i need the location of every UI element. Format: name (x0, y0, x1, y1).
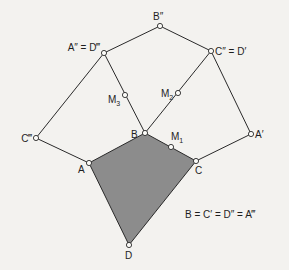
point-m3 (122, 92, 127, 97)
edge-app-cppp (36, 53, 104, 138)
point-a (86, 160, 91, 165)
point-d (126, 242, 131, 247)
label-m3: M3 (108, 94, 120, 107)
label-b-double-prime: B″ (153, 11, 164, 22)
edge-cppp-a (36, 138, 89, 163)
edge-ap-c (196, 134, 251, 161)
point-a-prime (248, 131, 253, 136)
label-a: A (78, 164, 85, 175)
label-c-double-prime-eq-d-prime: C″ = D′ (215, 46, 246, 57)
point-b (142, 130, 147, 135)
point-c-double-prime (208, 48, 213, 53)
label-c-triple-prime: C‴ (21, 133, 32, 144)
label-m2: M2 (161, 88, 173, 101)
label-m1: M1 (171, 131, 183, 144)
label-a-double-prime-eq-d-triple-prime: A″ = D‴ (68, 42, 101, 53)
shaded-quadrilateral-abcd (89, 133, 196, 245)
label-b: B (131, 129, 138, 140)
edge-bpp-cpp (160, 26, 211, 51)
point-c-triple-prime (33, 135, 38, 140)
point-a-double-prime (101, 50, 106, 55)
label-d: D (125, 250, 132, 261)
point-b-double-prime (157, 23, 162, 28)
label-a-prime: A′ (255, 129, 264, 140)
point-m2 (175, 90, 180, 95)
geometry-diagram: B″ A″ = D‴ C″ = D′ M3 M2 M1 B C A′ C‴ A … (0, 0, 289, 270)
point-c (193, 158, 198, 163)
point-m1 (168, 144, 173, 149)
label-c: C (195, 165, 202, 176)
edge-cpp-ap (211, 51, 251, 134)
edge-app-bpp (104, 26, 160, 53)
equation-label: B = C′ = D″ = A‴ (185, 209, 256, 220)
